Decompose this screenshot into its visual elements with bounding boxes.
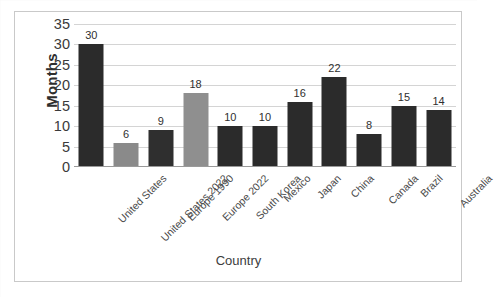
bar-value-label: 15	[398, 92, 410, 103]
y-axis-tick-5: 5	[62, 140, 70, 155]
bar-value-label: 6	[123, 129, 129, 140]
bar-value-label: 30	[85, 30, 97, 41]
bar-value-label: 18	[189, 79, 201, 90]
bar[interactable]	[79, 44, 104, 167]
bar-slot: 22	[317, 24, 352, 167]
bar[interactable]	[357, 134, 382, 167]
bar[interactable]	[183, 93, 208, 167]
bar-value-label: 10	[259, 112, 271, 123]
bar-value-label: 9	[158, 116, 164, 127]
bar-slot: 8	[352, 24, 387, 167]
bar-slot: 15	[387, 24, 422, 167]
bar[interactable]	[114, 143, 139, 168]
x-axis-title: Country	[0, 253, 477, 268]
y-axis-tick-0: 0	[62, 160, 70, 175]
y-axis-tick-20: 20	[54, 78, 70, 93]
bar-value-label: 10	[224, 112, 236, 123]
bar-slot: 10	[248, 24, 283, 167]
bar[interactable]	[148, 130, 173, 167]
bar-slot: 18	[178, 24, 213, 167]
bar[interactable]	[252, 126, 277, 167]
y-axis-tick-labels: 35302520151050	[32, 14, 70, 177]
bar[interactable]	[218, 126, 243, 167]
y-axis-tick-15: 15	[54, 99, 70, 114]
bar[interactable]	[426, 110, 451, 167]
bar-value-label: 22	[328, 63, 340, 74]
plot-area: 3069181010162281514	[74, 24, 456, 167]
bar-slot: 16	[282, 24, 317, 167]
bar-value-label: 16	[294, 88, 306, 99]
y-axis-tick-25: 25	[54, 58, 70, 73]
y-axis-tick-30: 30	[54, 37, 70, 52]
bar-slot: 9	[143, 24, 178, 167]
bar-slot: 30	[74, 24, 109, 167]
bar-slot: 6	[109, 24, 144, 167]
bar-slot: 10	[213, 24, 248, 167]
y-axis-tick-35: 35	[54, 17, 70, 32]
x-axis-line	[74, 166, 456, 167]
bar-slot: 14	[421, 24, 456, 167]
bar[interactable]	[287, 102, 312, 167]
x-axis-label-australia: Australia	[457, 172, 494, 209]
bar-value-label: 14	[433, 96, 445, 107]
bar-value-label: 8	[366, 120, 372, 131]
y-axis-tick-10: 10	[54, 119, 70, 134]
bar[interactable]	[322, 77, 347, 167]
bar[interactable]	[391, 106, 416, 167]
